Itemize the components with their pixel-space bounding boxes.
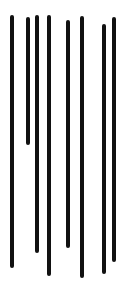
- vertical-line: [80, 16, 84, 278]
- vertical-line: [112, 17, 116, 262]
- vertical-line: [66, 20, 70, 248]
- vertical-line: [10, 15, 14, 268]
- vertical-line: [35, 15, 39, 253]
- vertical-line: [102, 24, 106, 274]
- vertical-line: [47, 15, 51, 276]
- vertical-line: [26, 17, 30, 145]
- vertical-lines-canvas: [0, 0, 126, 281]
